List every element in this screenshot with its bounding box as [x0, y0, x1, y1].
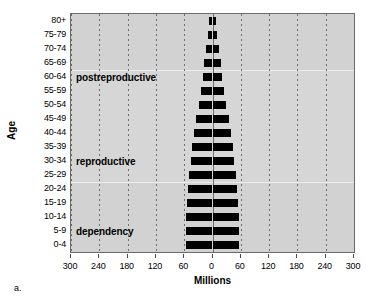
y-axis-tick-label: 10-14 — [44, 211, 66, 221]
x-axis-tick-mark — [353, 254, 354, 258]
bar-left — [204, 59, 212, 67]
x-axis-tick-mark — [296, 254, 297, 258]
bar-left — [203, 73, 213, 81]
y-axis-tick-label: 80+ — [51, 15, 66, 25]
x-axis-tick-mark — [98, 254, 99, 258]
x-axis-tick-mark — [183, 254, 184, 258]
bar-right — [213, 87, 225, 95]
bar-right — [213, 143, 234, 151]
x-axis-tick-label: 120 — [148, 261, 162, 271]
bar-right — [213, 199, 238, 207]
bar-left — [187, 199, 212, 207]
x-axis-tick-label: 0 — [209, 261, 214, 271]
x-axis-tick-label: 240 — [91, 261, 105, 271]
y-axis-tick-label: 15-19 — [44, 197, 66, 207]
y-axis-tick-labels: 0-45-910-1415-1920-2425-2930-3435-3940-4… — [22, 13, 68, 253]
figure-caption: a. — [14, 283, 22, 293]
x-axis-tick-label: 180 — [119, 261, 133, 271]
x-axis-tick-mark — [155, 254, 156, 258]
y-axis-tick-label: 35-39 — [44, 141, 66, 151]
bar-right — [213, 115, 229, 123]
bar-right — [213, 17, 217, 25]
x-axis-tick-mark — [127, 254, 128, 258]
region-label: reproductive — [76, 156, 135, 167]
x-axis-tick-mark — [70, 254, 71, 258]
bar-left — [191, 157, 213, 165]
bar-right — [213, 241, 240, 249]
y-axis-tick-label: 40-44 — [44, 127, 66, 137]
x-axis-tick-label: 240 — [317, 261, 331, 271]
bar-left — [206, 45, 213, 53]
x-axis-tick-mark — [240, 254, 241, 258]
x-axis-tick-labels: 30024018012060060120180240300 — [70, 261, 355, 275]
population-pyramid-figure: Age 0-45-910-1415-1920-2425-2930-3435-39… — [0, 0, 380, 308]
bar-row — [71, 87, 354, 95]
bar-row — [71, 143, 354, 151]
bar-left — [186, 213, 212, 221]
y-axis-tick-label: 70-74 — [44, 43, 66, 53]
x-axis-tick-label: 120 — [261, 261, 275, 271]
y-axis-tick-label: 5-9 — [54, 225, 66, 235]
plot-area: postreproductivereproductivedependency — [70, 13, 355, 253]
region-label: dependency — [76, 226, 133, 237]
y-axis-tick-label: 30-34 — [44, 155, 66, 165]
y-axis-tick-label: 60-64 — [44, 71, 66, 81]
x-axis-title: Millions — [70, 275, 355, 286]
bar-row — [71, 171, 354, 179]
y-axis-tick-label: 50-54 — [44, 99, 66, 109]
bar-row — [71, 17, 354, 25]
y-axis-tick-label: 75-79 — [44, 29, 66, 39]
bar-right — [213, 59, 221, 67]
bar-row — [71, 31, 354, 39]
x-axis-tick-label: 60 — [235, 261, 245, 271]
bar-row — [71, 101, 354, 109]
bar-row — [71, 59, 354, 67]
x-axis-tick-mark — [325, 254, 326, 258]
y-axis-title: Age — [6, 108, 17, 154]
bar-left — [186, 241, 213, 249]
bar-left — [196, 115, 212, 123]
bar-right — [213, 129, 231, 137]
bar-right — [213, 213, 239, 221]
y-axis-tick-label: 25-29 — [44, 169, 66, 179]
y-axis-tick-label: 0-4 — [54, 239, 66, 249]
bar-left — [194, 129, 212, 137]
x-axis-tick-label: 180 — [289, 261, 303, 271]
bar-left — [186, 227, 213, 235]
bar-right — [213, 171, 236, 179]
bar-row — [71, 213, 354, 221]
bar-right — [213, 227, 240, 235]
bar-left — [192, 143, 213, 151]
region-label: postreproductive — [76, 72, 156, 83]
bar-row — [71, 45, 354, 53]
bar-row — [71, 129, 354, 137]
x-axis-tick-mark — [212, 254, 213, 258]
bar-row — [71, 241, 354, 249]
bar-right — [213, 73, 223, 81]
y-axis-tick-label: 20-24 — [44, 183, 66, 193]
y-axis-tick-label: 65-69 — [44, 57, 66, 67]
bar-row — [71, 115, 354, 123]
bar-right — [213, 45, 220, 53]
x-axis-tick-label: 300 — [63, 261, 77, 271]
bar-right — [213, 185, 238, 193]
x-axis-tick-label: 60 — [178, 261, 188, 271]
gridline — [354, 14, 355, 252]
x-axis-tick-label: 300 — [346, 261, 360, 271]
bar-right — [213, 157, 235, 165]
bar-left — [189, 171, 212, 179]
bar-right — [213, 101, 227, 109]
bar-left — [201, 87, 213, 95]
bar-row — [71, 199, 354, 207]
bar-left — [188, 185, 213, 193]
y-axis-tick-label: 55-59 — [44, 85, 66, 95]
y-axis-tick-label: 45-49 — [44, 113, 66, 123]
x-axis-tick-mark — [268, 254, 269, 258]
bar-left — [199, 101, 213, 109]
bar-row — [71, 185, 354, 193]
bar-right — [213, 31, 218, 39]
